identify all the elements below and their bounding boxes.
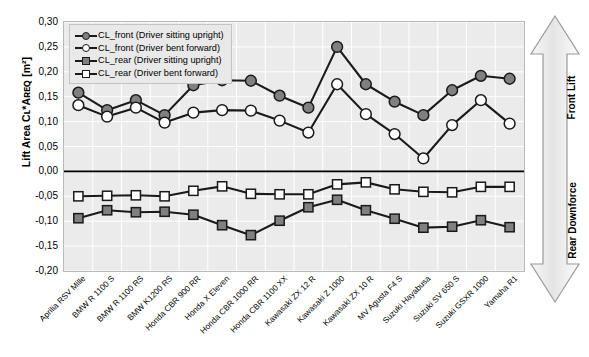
legend-label: CL_front (Driver bent forward) <box>98 42 220 55</box>
data-point <box>360 79 371 90</box>
data-point <box>102 111 113 122</box>
data-point <box>245 105 256 116</box>
legend-marker-icon <box>75 55 97 66</box>
data-point <box>246 231 255 240</box>
data-point <box>419 187 428 196</box>
data-point <box>418 110 429 121</box>
legend-marker-icon <box>75 30 97 41</box>
y-axis-tick: 0,05 <box>39 140 58 151</box>
data-point <box>304 190 313 199</box>
y-axis-tick: -0,20 <box>35 265 58 276</box>
legend-label: CL_front (Driver sitting upright) <box>98 29 224 42</box>
data-point <box>246 189 255 198</box>
data-point <box>189 186 198 195</box>
data-point <box>218 182 227 191</box>
front-lift-label: Front Lift <box>566 50 577 146</box>
y-axis-tick: 0,15 <box>39 90 58 101</box>
data-point <box>189 210 198 219</box>
data-point <box>303 102 314 113</box>
data-point <box>448 188 457 197</box>
y-axis-tick: 0,00 <box>39 165 58 176</box>
data-point <box>131 191 140 200</box>
y-axis-tick: -0,15 <box>35 240 58 251</box>
data-point <box>505 223 514 232</box>
data-point <box>274 115 285 126</box>
data-point <box>360 109 371 120</box>
y-axis-tick: 0,10 <box>39 115 58 126</box>
data-point <box>361 206 370 215</box>
x-axis-tick-labels: Aprilia RSV MilleBMW R 1100 SBMW R 1100 … <box>63 274 525 354</box>
data-point <box>333 195 342 204</box>
data-point <box>390 214 399 223</box>
y-axis-tick: 0,30 <box>39 16 58 27</box>
y-axis-tick: 0,20 <box>39 65 58 76</box>
data-point <box>160 192 169 201</box>
y-axis-tick: -0,05 <box>35 190 58 201</box>
data-point <box>217 105 228 116</box>
data-point <box>304 203 313 212</box>
legend-item: CL_front (Driver bent forward) <box>75 42 224 55</box>
legend-marker-icon <box>75 42 97 53</box>
data-point <box>475 70 486 81</box>
data-point <box>476 216 485 225</box>
legend-marker-icon <box>75 68 97 79</box>
data-point <box>389 96 400 107</box>
data-point <box>504 118 515 129</box>
data-point <box>419 223 428 232</box>
data-point <box>390 185 399 194</box>
lift-area-chart: Lift Area Cʟ*Aʀᴇꞯ [m²] 0,300,250,200,150… <box>0 0 589 357</box>
legend-item: CL_front (Driver sitting upright) <box>75 29 224 42</box>
x-axis-tick: Suzuki GSXR 1000 <box>434 274 490 330</box>
data-point <box>130 102 141 113</box>
x-axis-tick: Kawasaki ZX 12 R <box>264 274 318 328</box>
data-point <box>448 222 457 231</box>
data-point <box>275 216 284 225</box>
data-point <box>475 95 486 106</box>
data-point <box>332 42 343 53</box>
data-point <box>218 221 227 230</box>
data-point <box>505 182 514 191</box>
data-point <box>361 178 370 187</box>
data-point <box>275 190 284 199</box>
data-point <box>333 180 342 189</box>
data-point <box>447 85 458 96</box>
data-point <box>74 192 83 201</box>
legend-item: CL_rear (Driver sitting upright) <box>75 54 224 67</box>
double-arrow-icon <box>527 14 587 304</box>
data-point <box>131 208 140 217</box>
data-point <box>160 207 169 216</box>
direction-arrow-annotation: Front Lift Rear Downforce <box>527 14 587 304</box>
data-point <box>303 127 314 138</box>
legend-item: CL_rear (Driver bent forward) <box>75 67 224 80</box>
data-point <box>159 117 170 128</box>
y-axis-tick: -0,10 <box>35 215 58 226</box>
y-axis-tick: 0,25 <box>39 40 58 51</box>
chart-legend: CL_front (Driver sitting upright)CL_fron… <box>69 24 232 84</box>
data-point <box>447 120 458 131</box>
data-point <box>74 214 83 223</box>
x-axis-tick: Kawasaki ZX 10 R <box>321 274 375 328</box>
legend-label: CL_rear (Driver bent forward) <box>98 67 218 80</box>
data-point <box>245 75 256 86</box>
rear-downforce-label: Rear Downforce <box>567 163 578 279</box>
data-point <box>476 182 485 191</box>
data-point <box>504 73 515 84</box>
data-point <box>73 100 84 111</box>
data-point <box>73 87 84 98</box>
data-point <box>389 129 400 140</box>
data-point <box>418 153 429 164</box>
data-point <box>103 191 112 200</box>
legend-label: CL_rear (Driver sitting upright) <box>98 54 222 67</box>
data-point <box>103 206 112 215</box>
data-point <box>274 90 285 101</box>
data-point <box>188 107 199 118</box>
data-point <box>332 79 343 90</box>
